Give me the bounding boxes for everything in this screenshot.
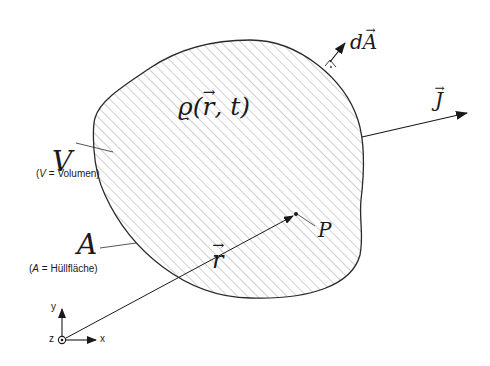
- surface-caption: (A = Hüllfläche): [29, 263, 98, 274]
- density-suffix: , t): [214, 92, 250, 121]
- volume-region: [93, 40, 363, 298]
- current-density-label: J: [435, 88, 443, 112]
- y-axis-label: y: [51, 301, 56, 312]
- current-density-arrow: [362, 113, 467, 137]
- volume-caption-symbol: V: [39, 168, 46, 179]
- z-axis-label: z: [49, 333, 54, 344]
- area-element-label: dA: [350, 30, 377, 54]
- area-element-d: d: [350, 30, 363, 54]
- current-density-vector-j: J: [435, 88, 443, 112]
- surface-leader: [100, 243, 136, 248]
- x-axis-label: x: [100, 333, 105, 344]
- area-element-vector-a: A: [363, 30, 377, 54]
- diagram-graphics: [0, 0, 490, 366]
- surface-symbol: A: [77, 228, 97, 261]
- surface-caption-symbol: A: [32, 263, 39, 274]
- density-prefix: ϱ(: [178, 92, 202, 121]
- volume-caption: (V = Volumen): [36, 168, 100, 179]
- position-vector-r: r: [212, 246, 223, 274]
- area-normal-arrow: [330, 43, 345, 62]
- density-vector-r: r: [202, 92, 214, 121]
- density-label: ϱ(r, t): [178, 92, 250, 121]
- position-vector-label: r: [212, 246, 223, 274]
- surface-caption-text: = Hüllfläche): [39, 263, 98, 274]
- volume-caption-text: = Volumen): [46, 168, 100, 179]
- point-p-label: P: [318, 218, 331, 242]
- flux-diagram: ϱ(r, t) V (V = Volumen) A (A = Hüllfläch…: [0, 0, 490, 366]
